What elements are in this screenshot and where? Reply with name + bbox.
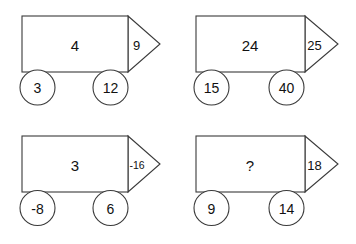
body-value-4: ? — [246, 157, 254, 174]
body-value-2: 24 — [242, 37, 259, 54]
puzzle-svg-1: 4 9 3 12 — [0, 0, 178, 122]
puzzle-diagram-4: ? 18 9 14 — [178, 122, 356, 244]
wheel-left-value-4: 9 — [208, 201, 216, 217]
wheel-left-value-2: 15 — [204, 80, 220, 96]
puzzle-diagram-3: 3 -16 -8 6 — [0, 122, 178, 244]
puzzle-diagram-2: 24 25 15 40 — [178, 0, 356, 122]
body-value-1: 4 — [71, 37, 79, 54]
puzzle-svg-2: 24 25 15 40 — [178, 0, 356, 122]
wheel-right-value-4: 14 — [279, 201, 295, 217]
tip-value-4: 18 — [307, 158, 321, 173]
puzzle-grid: 4 9 3 12 24 25 15 40 3 -16 -8 6 — [0, 0, 356, 244]
puzzle-diagram-1: 4 9 3 12 — [0, 0, 178, 122]
wheel-left-value-3: -8 — [31, 201, 44, 217]
tip-value-1: 9 — [133, 38, 140, 53]
puzzle-svg-3: 3 -16 -8 6 — [0, 122, 178, 244]
puzzle-svg-4: ? 18 9 14 — [178, 122, 356, 244]
wheel-left-value-1: 3 — [34, 80, 42, 96]
tip-value-3: -16 — [129, 159, 144, 171]
wheel-right-value-2: 40 — [279, 80, 295, 96]
tip-value-2: 25 — [307, 38, 321, 53]
wheel-right-value-1: 12 — [103, 80, 119, 96]
wheel-right-value-3: 6 — [107, 201, 115, 217]
body-value-3: 3 — [71, 157, 79, 174]
